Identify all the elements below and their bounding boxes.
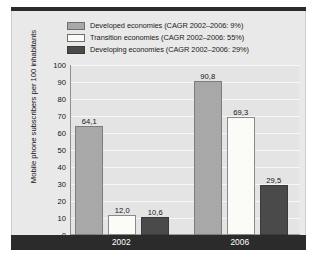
legend-label-developing: Developing economies (CAGR 2002–2006: 29… (90, 45, 249, 54)
bar-value-label: 64,1 (82, 117, 97, 126)
y-tick-label: 10 (44, 214, 66, 223)
legend-item-developing: Developing economies (CAGR 2002–2006: 29… (67, 44, 303, 55)
y-tick-label: 60 (44, 129, 66, 138)
x-axis-band: 20022006 (11, 235, 306, 250)
gridline (71, 82, 300, 83)
bar-transition-economies-2002: 12,0 (108, 215, 136, 235)
gridline (71, 65, 300, 66)
bar-value-label: 69,3 (233, 108, 248, 117)
chart-legend: Developed economies (CAGR 2002–2006: 9%)… (67, 20, 303, 56)
y-axis-ticks: 1009080706050403020100 (42, 65, 66, 235)
y-tick-label: 70 (44, 112, 66, 121)
bar-value-label: 29,5 (266, 176, 281, 185)
y-axis-title: Mobile phone subscribers per 100 inhabit… (29, 22, 38, 192)
chart-panel: Developed economies (CAGR 2002–2006: 9%)… (11, 7, 306, 250)
gridline (71, 116, 300, 117)
bar-developed-economies-2006: 90,8 (194, 81, 222, 235)
chart-figure: Developed economies (CAGR 2002–2006: 9%)… (0, 0, 317, 269)
legend-swatch-developing-icon (67, 46, 85, 54)
legend-swatch-transition-icon (67, 34, 85, 42)
legend-label-transition: Transition economies (CAGR 2002–2006: 55… (90, 33, 244, 42)
gridline (71, 133, 300, 134)
legend-swatch-developed-icon (67, 22, 85, 30)
bar-developing-economies-2002: 10,6 (141, 217, 169, 235)
y-tick-label: 80 (44, 95, 66, 104)
gridline (71, 150, 300, 151)
bar-value-label: 10,6 (148, 208, 163, 217)
y-tick-label: 100 (44, 61, 66, 70)
y-tick-label: 50 (44, 146, 66, 155)
y-tick-label: 90 (44, 78, 66, 87)
legend-item-developed: Developed economies (CAGR 2002–2006: 9%) (67, 20, 303, 31)
bar-value-label: 12,0 (115, 206, 130, 215)
gridline (71, 99, 300, 100)
gridline (71, 167, 300, 168)
bar-value-label: 90,8 (200, 72, 215, 81)
y-tick-label: 40 (44, 163, 66, 172)
y-tick-label: 30 (44, 180, 66, 189)
bar-developing-economies-2006: 29,5 (260, 185, 288, 235)
x-category-label-2006: 2006 (193, 237, 287, 247)
x-category-label-2002: 2002 (74, 237, 168, 247)
y-tick-label: 20 (44, 197, 66, 206)
bar-transition-economies-2006: 69,3 (227, 117, 255, 235)
legend-label-developed: Developed economies (CAGR 2002–2006: 9%) (90, 21, 243, 30)
bar-developed-economies-2002: 64,1 (75, 126, 103, 235)
legend-item-transition: Transition economies (CAGR 2002–2006: 55… (67, 32, 303, 43)
plot-area: 64,112,010,690,869,329,5 (70, 65, 299, 235)
